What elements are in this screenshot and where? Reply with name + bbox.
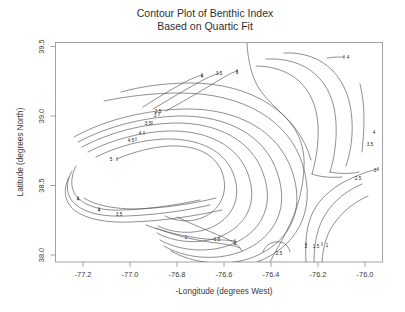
contour-line-right-hook-2 xyxy=(330,172,359,174)
contour-line-bottomright-1 xyxy=(322,196,368,262)
x-tick-label-76-2: -76.2 xyxy=(310,270,327,279)
contour-line-plume-4 xyxy=(143,75,202,107)
x-axis-ticks xyxy=(83,262,365,267)
contour-line-topright-4 xyxy=(327,57,344,58)
contour-label-plume-3-5: 3.5 xyxy=(216,71,223,76)
contour-label-topright-4: 4 xyxy=(347,55,350,60)
contour-label-bottom-2: 2 xyxy=(234,241,237,246)
x-tick-label-76-8: -76.8 xyxy=(169,270,186,279)
contour-label-5: 5 xyxy=(110,157,113,162)
x-tick-label-76-6: -76.6 xyxy=(216,270,233,279)
contour-plot-figure: Contour Plot of Benthic Index Based on Q… xyxy=(0,0,405,312)
contour-line-right-hook-1 xyxy=(312,174,342,177)
contour-line-lowerleft-3 xyxy=(65,177,222,222)
chart-title-line-1: Contour Plot of Benthic Index xyxy=(137,7,274,19)
x-axis-tick-labels: -77.2 -77.0 -76.8 -76.6 -76.4 -76.2 -76.… xyxy=(75,270,374,279)
contour-label-br-1: 1 xyxy=(326,243,329,248)
contour-label-right-3-5: 3.5 xyxy=(367,142,374,147)
contour-lines-group xyxy=(65,43,378,263)
x-tick-label-76-0: -76.0 xyxy=(357,270,374,279)
contour-line-right-s-3 xyxy=(266,59,336,172)
contour-labels-group: 5 4.5 4 3.5 3 2.5 4 4 3.5 4 3.5 3 1 1.5 … xyxy=(77,55,377,256)
contour-label-3-5-left: 3.5 xyxy=(145,121,152,126)
contour-label-lowerleft-3-5: 3.5 xyxy=(116,212,123,217)
contour-label-2-5-left: 2.5 xyxy=(155,109,162,114)
contour-line-right-short xyxy=(360,84,364,152)
y-tick-label-39-5: 39.5 xyxy=(37,39,46,53)
x-axis-title: -Longitude (degrees West) xyxy=(176,287,273,296)
y-tick-label-38-5: 38.5 xyxy=(37,178,46,192)
x-tick-label-77-2: -77.2 xyxy=(75,270,92,279)
y-tick-label-39-0: 39.0 xyxy=(37,109,46,123)
contour-line-level-4-inner xyxy=(88,131,252,242)
chart-title-line-2: Based on Quartic Fit xyxy=(157,20,253,32)
contour-line-level-3-5-inner xyxy=(82,123,267,250)
contour-label-br-1-5: 1.5 xyxy=(313,244,320,249)
contour-line-right-s-4 xyxy=(284,53,352,166)
contour-line-lowerleft-1 xyxy=(72,166,200,210)
contour-label-lowerleft-4a: 4 xyxy=(77,197,80,202)
contour-label-4-5: 4.5 xyxy=(128,138,135,143)
contour-line-right-s-1 xyxy=(247,43,304,262)
contour-line-bottomright-1-5 xyxy=(314,184,362,262)
contour-label-bottom-1: 1 xyxy=(185,235,188,240)
contour-label-plume-3: 3 xyxy=(236,70,239,75)
contour-line-right-s-2 xyxy=(256,66,318,174)
contour-line-plume-3-5 xyxy=(153,73,220,109)
contour-label-4-left: 4 xyxy=(139,131,142,136)
contour-label-blob-2-5: 2.5 xyxy=(276,251,283,256)
y-tick-label-38-0: 38.0 xyxy=(37,248,46,262)
contour-label-ticks xyxy=(78,55,378,246)
x-tick-label-76-4: -76.4 xyxy=(263,270,280,279)
y-axis-tick-labels: 39.5 39.0 38.5 38.0 xyxy=(37,39,46,262)
contour-label-right-4: 4 xyxy=(373,130,376,135)
contour-line-central-outer-2 xyxy=(104,93,307,262)
contour-label-right-3: 3 xyxy=(374,168,377,173)
x-tick-label-77-0: -77.0 xyxy=(122,270,139,279)
contour-line-level-4-5 xyxy=(96,139,237,232)
y-axis-ticks xyxy=(51,47,56,256)
contour-line-lowerleft-4 xyxy=(84,198,216,209)
contour-label-br-2: 2 xyxy=(305,244,308,249)
contour-label-plume-4: 4 xyxy=(201,74,204,79)
contour-label-right-2-5: 2.5 xyxy=(355,176,362,181)
contour-plot-svg: Contour Plot of Benthic Index Based on Q… xyxy=(0,0,405,312)
contour-label-lowerleft-4b: 4 xyxy=(98,208,101,213)
y-axis-title: Latitude (degrees North) xyxy=(16,107,25,196)
contour-label-bottom-1-5: 1.5 xyxy=(214,237,221,242)
